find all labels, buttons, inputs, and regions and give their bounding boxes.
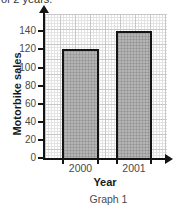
y-tick-mark [38, 121, 43, 123]
y-tick-label: 0 [5, 153, 36, 163]
x-tick-label: 2001 [112, 162, 156, 174]
y-axis-line [43, 12, 45, 160]
y-tick-mark [38, 85, 43, 87]
x-axis-title: Year [43, 176, 167, 188]
y-tick-label: 140 [5, 26, 36, 36]
y-tick-mark [38, 157, 43, 159]
worksheet-figure: of 2 years. 020406080100120140 20002001 … [0, 0, 177, 209]
bar-2001 [116, 31, 152, 160]
bar-2000 [62, 49, 99, 160]
y-tick-mark [38, 30, 43, 32]
y-axis-arrow-icon [39, 5, 49, 13]
y-tick-mark [38, 139, 43, 141]
x-tick-label: 2000 [59, 162, 103, 174]
y-tick-mark [38, 103, 43, 105]
figure-caption: Graph 1 [40, 193, 177, 205]
x-axis-arrow-icon [165, 154, 173, 164]
y-tick-mark [38, 67, 43, 69]
y-tick-mark [38, 48, 43, 50]
y-axis-title: Motorbike sales [11, 39, 23, 149]
